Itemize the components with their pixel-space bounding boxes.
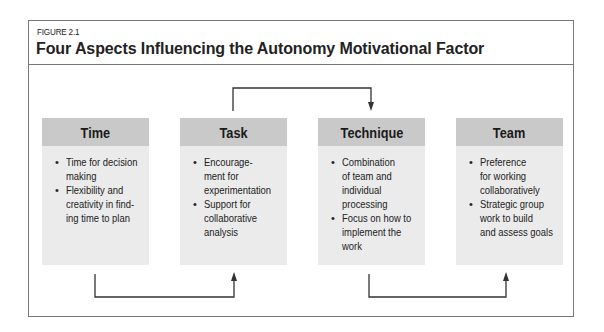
arrow-technique-to-team xyxy=(369,272,509,297)
arrowhead-up-icon xyxy=(231,272,237,281)
connector-arrows xyxy=(0,0,604,332)
arrowhead-down-icon xyxy=(368,102,374,111)
arrow-time-to-task xyxy=(95,272,237,297)
arrow-task-to-technique xyxy=(233,88,374,111)
arrowhead-up-icon xyxy=(503,272,509,281)
